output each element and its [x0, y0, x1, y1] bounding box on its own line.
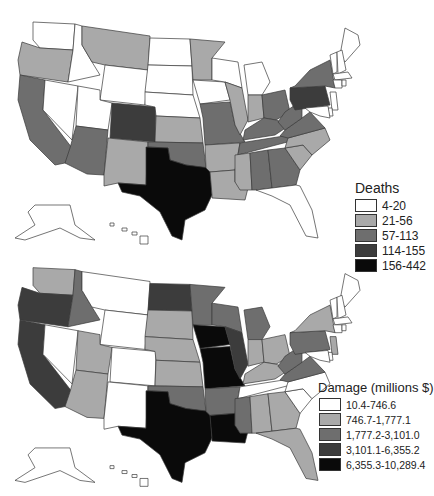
state-ak	[15, 448, 95, 482]
legend-row: 6,355.3-10,289.4	[319, 457, 434, 472]
state-nd	[148, 38, 192, 66]
legend-swatch	[355, 199, 377, 212]
state-nd	[148, 283, 192, 311]
state-ct	[333, 80, 342, 88]
legend-row: 3,101.1-6,355.2	[319, 442, 434, 457]
state-ri	[342, 80, 346, 86]
legend-label: 746.7-1,777.1	[346, 414, 411, 426]
state-nm	[104, 138, 148, 186]
legend-label: 4-20	[382, 199, 406, 213]
state-hi	[110, 466, 148, 487]
state-ks	[155, 116, 203, 143]
legend-label: 3,101.1-6,355.2	[346, 444, 420, 456]
state-nm	[104, 382, 148, 429]
state-hi	[110, 223, 148, 244]
deaths-map: Deaths 4-20 21-56 57-113 114-155 156-442	[0, 0, 432, 250]
state-ak	[15, 205, 95, 240]
legend-label: 6,355.3-10,289.4	[346, 459, 425, 471]
state-wa	[33, 22, 75, 50]
legend-label: 10.4-746.6	[346, 399, 396, 411]
state-wy	[100, 310, 148, 349]
state-ms	[235, 153, 252, 190]
legend-swatch	[319, 458, 341, 471]
deaths-legend-title: Deaths	[355, 180, 426, 196]
legend-row: 57-113	[355, 228, 426, 243]
state-ny	[290, 60, 335, 88]
damage-legend: Damage (millions $) 10.4-746.6 746.7-1,7…	[319, 380, 434, 472]
state-sd	[145, 65, 193, 95]
damage-legend-title: Damage (millions $)	[318, 380, 434, 395]
legend-row: 10.4-746.6	[319, 397, 434, 412]
damage-map: Damage (millions $) 10.4-746.6 746.7-1,7…	[0, 250, 432, 496]
state-nj	[330, 337, 338, 355]
legend-row: 1,777.2-3,101.0	[319, 427, 434, 442]
state-in	[248, 95, 264, 122]
state-wy	[100, 65, 148, 105]
state-fl	[256, 185, 318, 238]
legend-swatch	[319, 398, 341, 411]
state-mi	[244, 307, 270, 340]
state-sd	[145, 310, 193, 340]
state-co	[110, 103, 156, 142]
state-mi	[244, 62, 270, 95]
legend-swatch	[319, 428, 341, 441]
state-ma	[333, 72, 352, 80]
state-wa	[33, 268, 75, 296]
state-ri	[342, 325, 346, 331]
legend-swatch	[355, 214, 377, 227]
state-ct	[333, 325, 342, 333]
legend-row: 746.7-1,777.1	[319, 412, 434, 427]
state-ks	[155, 360, 203, 387]
legend-swatch	[319, 413, 341, 426]
legend-label: 57-113	[382, 229, 418, 243]
legend-row: 21-56	[355, 213, 426, 228]
state-co	[110, 347, 156, 385]
state-ia	[193, 80, 230, 104]
legend-label: 21-56	[382, 214, 413, 228]
legend-swatch	[355, 229, 377, 242]
state-ma	[333, 317, 352, 325]
legend-row: 4-20	[355, 198, 426, 213]
legend-swatch	[319, 443, 341, 456]
state-in	[248, 340, 264, 367]
state-ia	[193, 325, 230, 349]
state-ny	[290, 305, 335, 333]
state-nj	[330, 92, 338, 110]
state-fl	[256, 428, 318, 480]
state-ms	[235, 397, 252, 433]
legend-label: 1,777.2-3,101.0	[346, 429, 420, 441]
